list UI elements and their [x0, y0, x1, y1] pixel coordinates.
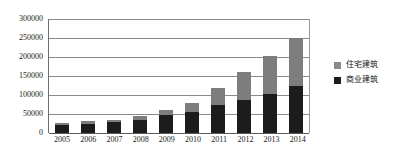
x-axis-tick-label: 2013 [264, 136, 278, 152]
bar-column[interactable] [159, 19, 173, 133]
x-axis-tick-label: 2008 [133, 136, 147, 152]
bar-column[interactable] [107, 19, 121, 133]
y-axis-tick-label: 200000 [19, 53, 43, 61]
y-axis-tick-labels: 050000100000150000200000250000300000 [0, 0, 46, 163]
legend-item-label: 住宅建筑 [346, 61, 378, 69]
x-axis-tick-label: 2007 [106, 136, 120, 152]
residential-color-swatch-icon [334, 62, 341, 69]
y-axis-tick-label: 150000 [19, 72, 43, 80]
bar-segment[interactable] [263, 56, 277, 94]
chart-legend: 住宅建筑商业建筑 [334, 61, 403, 91]
bar-segment[interactable] [133, 120, 147, 133]
x-axis-tick-label: 2014 [290, 136, 304, 152]
y-axis-tick-label: 50000 [23, 110, 43, 118]
bar-segment[interactable] [107, 122, 121, 133]
bar-segment[interactable] [211, 88, 225, 105]
legend-item[interactable]: 住宅建筑 [334, 61, 403, 69]
y-axis-tick-label: 0 [39, 129, 43, 137]
bar-series-group [49, 19, 309, 133]
bar-column[interactable] [289, 19, 303, 133]
bar-segment[interactable] [237, 72, 251, 100]
x-axis-tick-label: 2005 [54, 136, 68, 152]
axis-baseline [49, 133, 309, 134]
bar-segment[interactable] [185, 112, 199, 133]
bar-column[interactable] [263, 19, 277, 133]
bar-segment[interactable] [289, 86, 303, 134]
x-axis-tick-label: 2006 [80, 136, 94, 152]
plot-area [48, 19, 310, 133]
bar-segment[interactable] [211, 105, 225, 133]
bar-segment[interactable] [55, 125, 69, 133]
commercial-color-swatch-icon [334, 77, 341, 84]
bar-segment[interactable] [237, 100, 251, 133]
legend-item-label: 商业建筑 [346, 76, 378, 84]
y-axis-tick-label: 100000 [19, 91, 43, 99]
bar-column[interactable] [55, 19, 69, 133]
bar-segment[interactable] [289, 38, 303, 86]
bar-column[interactable] [185, 19, 199, 133]
bar-column[interactable] [81, 19, 95, 133]
y-axis-tick-label: 250000 [19, 34, 43, 42]
legend-item[interactable]: 商业建筑 [334, 76, 403, 84]
bar-segment[interactable] [81, 124, 95, 134]
stacked-bar-chart: 050000100000150000200000250000300000 200… [0, 0, 403, 163]
x-axis-tick-label: 2009 [159, 136, 173, 152]
y-axis-tick-label: 300000 [19, 15, 43, 23]
bar-column[interactable] [237, 19, 251, 133]
bar-segment[interactable] [185, 103, 199, 111]
bar-segment[interactable] [263, 94, 277, 133]
x-axis-tick-labels: 2005200620072008200920102011201220132014 [48, 136, 310, 152]
x-axis-tick-label: 2011 [211, 136, 225, 152]
bar-segment[interactable] [159, 115, 173, 133]
x-axis-tick-label: 2010 [185, 136, 199, 152]
bar-column[interactable] [211, 19, 225, 133]
bar-column[interactable] [133, 19, 147, 133]
x-axis-tick-label: 2012 [237, 136, 251, 152]
